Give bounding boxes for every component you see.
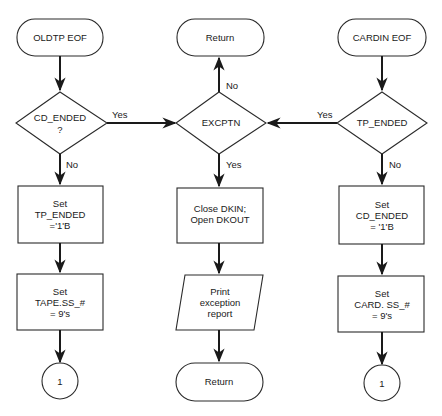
center-yes-label: Yes xyxy=(226,159,242,170)
right-no-label: No xyxy=(389,159,401,170)
center-return-top-terminal: Return xyxy=(177,19,264,56)
right-connector-label: 1 xyxy=(379,378,384,389)
left-process1-line2: TP_ENDED xyxy=(35,209,86,220)
center-io-line2: exception xyxy=(200,297,241,308)
center-return-top-label: Return xyxy=(206,32,235,43)
center-process-line2: Open DKOUT xyxy=(190,214,249,225)
left-process2-line2: TAPE.SS_# xyxy=(35,297,86,308)
center-decision-excptn: EXCPTN xyxy=(176,92,266,154)
right-start-label: CARDIN EOF xyxy=(353,32,412,43)
right-yes-label: Yes xyxy=(317,109,333,120)
right-connector: 1 xyxy=(364,365,400,401)
right-process2-line3: = 9's xyxy=(372,310,392,321)
center-io-line3: report xyxy=(208,308,233,319)
left-start-label: OLDTP EOF xyxy=(33,32,87,43)
right-process2-line2: CARD. SS_# xyxy=(354,299,410,310)
left-decision-cd-ended: CD_ENDED ? xyxy=(16,92,107,154)
left-process1-line3: ='1'B xyxy=(50,220,71,231)
left-process-set-tape-ss: Set TAPE.SS_# = 9's xyxy=(17,274,103,330)
right-decision-label: TP_ENDED xyxy=(357,117,408,128)
right-process-set-card-ss: Set CARD. SS_# = 9's xyxy=(338,276,424,332)
center-return-bottom-terminal: Return xyxy=(176,363,263,401)
center-process-close-open: Close DKIN; Open DKOUT xyxy=(177,188,263,243)
flowchart: OLDTP EOF CD_ENDED ? Yes No Set TP_ENDED… xyxy=(0,0,442,416)
center-io-line1: Print xyxy=(210,286,230,297)
right-process1-line1: Set xyxy=(375,199,390,210)
left-connector: 1 xyxy=(42,363,78,399)
left-yes-label: Yes xyxy=(112,109,128,120)
left-process1-line1: Set xyxy=(53,198,68,209)
right-start-terminal: CARDIN EOF xyxy=(338,19,426,56)
left-no-label: No xyxy=(66,159,78,170)
right-process1-line2: CD_ENDED xyxy=(356,210,408,221)
center-process-line1: Close DKIN; xyxy=(194,203,246,214)
left-process-set-tp-ended: Set TP_ENDED ='1'B xyxy=(18,186,103,243)
center-decision-label: EXCPTN xyxy=(202,117,241,128)
right-process2-line1: Set xyxy=(375,288,390,299)
center-return-bottom-label: Return xyxy=(205,376,234,387)
right-process1-line3: = '1'B xyxy=(370,221,393,232)
left-decision-label: CD_ENDED xyxy=(34,112,86,123)
center-io-print-report: Print exception report xyxy=(176,275,263,330)
left-start-terminal: OLDTP EOF xyxy=(17,19,103,56)
right-process-set-cd-ended: Set CD_ENDED = '1'B xyxy=(339,186,424,244)
left-connector-label: 1 xyxy=(57,376,62,387)
left-decision-question: ? xyxy=(57,124,62,135)
center-no-label: No xyxy=(226,80,238,91)
right-decision-tp-ended: TP_ENDED xyxy=(337,92,427,154)
left-process2-line1: Set xyxy=(53,286,68,297)
left-process2-line3: = 9's xyxy=(50,308,70,319)
